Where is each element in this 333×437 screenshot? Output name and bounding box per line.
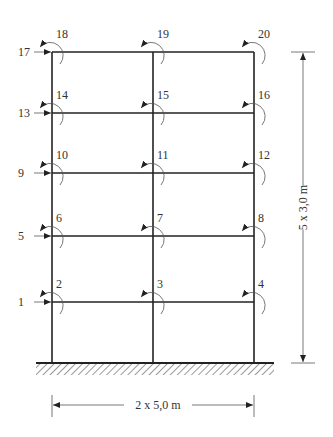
dof-label-11: 11 [157, 148, 169, 162]
ground-hatch [36, 363, 274, 375]
frame-diagram: 1234567891011121314151617181920 5 x 3,0 … [0, 0, 333, 437]
dof-label-20: 20 [258, 27, 270, 41]
dof-label-12: 12 [258, 148, 270, 162]
dof-label-3: 3 [157, 277, 163, 291]
dof-label-7: 7 [157, 211, 163, 225]
dof-label-16: 16 [258, 88, 270, 102]
dof-label-18: 18 [56, 27, 68, 41]
dof-label-9: 9 [18, 166, 24, 180]
vertical-dimension-text: 5 x 3,0 m [296, 184, 310, 230]
horizontal-dimension-text: 2 x 5,0 m [135, 398, 181, 412]
dof-label-14: 14 [56, 88, 68, 102]
dof-label-19: 19 [157, 27, 169, 41]
degrees-of-freedom: 1234567891011121314151617181920 [18, 27, 270, 314]
dof-label-4: 4 [258, 277, 264, 291]
dof-label-2: 2 [56, 277, 62, 291]
fixed-ground-support [36, 363, 274, 375]
dof-label-5: 5 [18, 229, 24, 243]
dof-label-10: 10 [56, 148, 68, 162]
dof-label-1: 1 [18, 295, 24, 309]
dof-label-8: 8 [258, 211, 264, 225]
dof-label-17: 17 [18, 45, 30, 59]
dof-label-6: 6 [56, 211, 62, 225]
dof-label-13: 13 [18, 106, 30, 120]
dof-label-15: 15 [157, 88, 169, 102]
frame-members [52, 52, 254, 363]
